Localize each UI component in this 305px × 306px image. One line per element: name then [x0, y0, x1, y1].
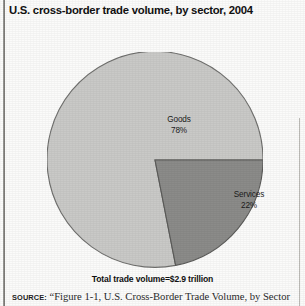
- pie-label-services: Services 22%: [211, 190, 287, 211]
- source-text: “Figure 1-1, U.S. Cross-Border Trade Vol…: [49, 291, 290, 302]
- pie-label-goods-name: Goods: [144, 115, 214, 126]
- source-note: SOURCE: “Figure 1-1, U.S. Cross-Border T…: [12, 291, 300, 302]
- pie-label-goods-value: 78%: [144, 126, 214, 137]
- pie-chart: Goods 78% Services 22%: [47, 52, 263, 268]
- pie-label-services-value: 22%: [211, 201, 287, 212]
- page-gutter-left: [3, 0, 5, 306]
- total-volume-caption: Total trade volume=$2.9 trillion: [0, 274, 305, 284]
- pie-label-goods: Goods 78%: [144, 115, 214, 136]
- pie-chart-svg: [47, 52, 263, 268]
- figure-page: U.S. cross-border trade volume, by secto…: [0, 0, 305, 306]
- pie-label-services-name: Services: [211, 190, 287, 201]
- source-kicker: SOURCE:: [12, 293, 47, 302]
- page-title: U.S. cross-border trade volume, by secto…: [9, 3, 295, 17]
